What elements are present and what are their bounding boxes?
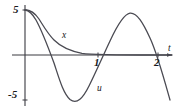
y-axis-tick-label-5: 5 (13, 4, 19, 15)
curve-label-x: x (62, 31, 66, 41)
curve-x (25, 10, 172, 55)
y-axis-tick-label-minus-5: -5 (8, 89, 17, 100)
x-axis-tick-label-2: 2 (154, 57, 160, 68)
x-axis-variable-label: t (168, 44, 171, 54)
curve-label-u: u (97, 84, 102, 94)
x-axis-tick-label-1: 1 (94, 57, 100, 68)
chart-figure: 5 -5 1 2 t x u (0, 0, 175, 111)
plot-area (0, 0, 175, 111)
